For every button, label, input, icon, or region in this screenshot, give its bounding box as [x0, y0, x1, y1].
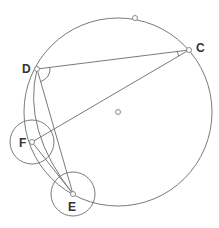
angle-mark-D [41, 67, 50, 81]
label-F: F [19, 136, 26, 150]
point-center[interactable] [116, 110, 121, 115]
segment-D-E [37, 69, 73, 194]
segment-C-F [32, 50, 189, 142]
point-E[interactable] [71, 192, 76, 197]
label-C: C [196, 41, 205, 55]
point-D[interactable] [35, 67, 40, 72]
geometry-diagram: D C F E [0, 0, 219, 228]
label-D: D [22, 62, 31, 76]
angle-mark-C [177, 52, 179, 57]
point-C[interactable] [187, 48, 192, 53]
point-F[interactable] [30, 140, 35, 145]
segment-D-C [37, 50, 189, 69]
label-E: E [68, 200, 76, 214]
point-top[interactable] [133, 16, 138, 21]
